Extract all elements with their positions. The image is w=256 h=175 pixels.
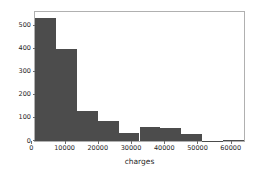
histogram-figure: 0100200300400500010000200003000040000500… — [0, 0, 256, 175]
histogram-bar — [98, 121, 119, 141]
y-axis-tick-label: 100 — [19, 115, 31, 122]
x-axis-tick-mark — [31, 141, 32, 144]
y-axis-tick-label: 300 — [19, 69, 31, 76]
x-axis-tick-mark — [98, 141, 99, 144]
histogram-bars — [35, 12, 244, 141]
x-axis-tick-label: 0 — [29, 145, 33, 152]
y-axis-tick-mark — [33, 94, 36, 95]
x-axis-tick-label: 40000 — [154, 145, 175, 152]
x-axis-tick-mark — [164, 141, 165, 144]
histogram-bar — [140, 127, 161, 141]
histogram-bar — [181, 134, 202, 141]
y-axis-tick-label: 400 — [19, 46, 31, 53]
plot-area: 0100200300400500010000200003000040000500… — [34, 11, 245, 142]
x-axis-tick-label: 10000 — [54, 145, 75, 152]
histogram-bar — [77, 111, 98, 141]
y-axis-tick-label: 200 — [19, 92, 31, 99]
histogram-bar — [160, 128, 181, 141]
y-axis-tick-mark — [33, 25, 36, 26]
histogram-bar — [119, 133, 140, 141]
y-axis-tick-mark — [33, 71, 36, 72]
x-axis-label: charges — [34, 158, 245, 166]
histogram-bar — [56, 49, 77, 141]
x-axis-tick-label: 50000 — [187, 145, 208, 152]
x-axis-tick-mark — [231, 141, 232, 144]
x-axis-tick-mark — [131, 141, 132, 144]
y-axis-tick-mark — [33, 140, 36, 141]
x-axis-tick-mark — [197, 141, 198, 144]
y-axis-tick-label: 500 — [19, 23, 31, 30]
y-axis-tick-mark — [33, 48, 36, 49]
x-axis-tick-label: 20000 — [87, 145, 108, 152]
histogram-bar — [35, 18, 56, 141]
x-axis-tick-mark — [65, 141, 66, 144]
x-axis-tick-label: 60000 — [220, 145, 241, 152]
x-axis-tick-label: 30000 — [121, 145, 142, 152]
y-axis-tick-mark — [33, 117, 36, 118]
histogram-bar — [223, 140, 244, 141]
